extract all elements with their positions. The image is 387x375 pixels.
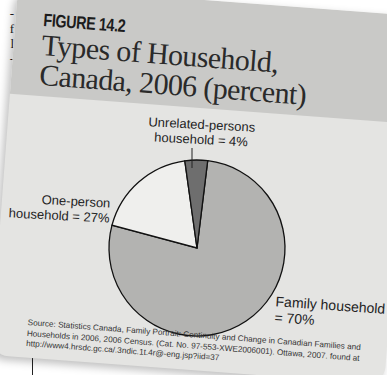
label-one-person: One-person household = 27% [7,190,110,225]
pie-chart: Unrelated-persons household = 4% One-per… [0,0,387,375]
label-unrelated: Unrelated-persons household = 4% [147,114,255,150]
